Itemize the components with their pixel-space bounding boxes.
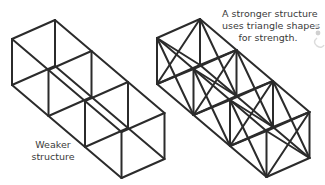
rod bbox=[12, 39, 122, 132]
stronger-label-line-3: for strength. bbox=[222, 32, 314, 44]
rod bbox=[12, 20, 55, 39]
weaker-label-line-2: structure bbox=[22, 151, 84, 163]
diagram-canvas: Weaker structure A stronger structure us… bbox=[0, 0, 325, 185]
stronger-label-line-2: uses triangle shapes bbox=[222, 20, 314, 32]
weaker-label-line-1: Weaker bbox=[22, 139, 84, 151]
rod bbox=[157, 84, 267, 177]
weaker-structure-label: Weaker structure bbox=[22, 139, 84, 163]
rod bbox=[12, 85, 122, 178]
decorative-swirl-icon bbox=[311, 22, 325, 52]
rod bbox=[122, 159, 165, 178]
stronger-structure-label: A stronger structure uses triangle shape… bbox=[222, 8, 314, 44]
rod bbox=[55, 20, 165, 113]
stronger-label-line-1: A stronger structure bbox=[222, 8, 314, 20]
